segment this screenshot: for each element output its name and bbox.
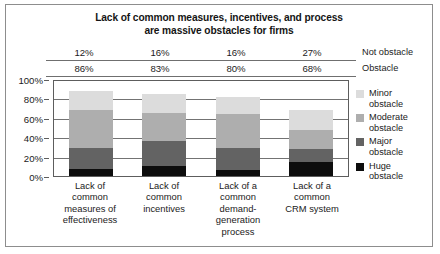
bar-segment[interactable]	[216, 97, 260, 113]
bar-column[interactable]	[142, 81, 186, 176]
summary-row-label-obstacle: Obstacle	[362, 61, 440, 76]
x-axis-category-label: Lack of acommondemand-generationprocess	[202, 180, 274, 237]
x-axis-category-label-line: common	[54, 191, 126, 202]
y-axis-tick-mark	[44, 80, 49, 81]
bar-segment[interactable]	[289, 149, 333, 163]
x-axis-category-label: Lack ofcommonmeasures ofeffectiveness	[54, 180, 126, 237]
x-axis-category-label-line: incentives	[128, 203, 200, 214]
y-axis-tick-mark	[44, 177, 49, 178]
legend-item-label-line-2: obstacle	[369, 99, 434, 110]
bar-group	[54, 81, 348, 176]
summary-row-label-not-obstacle: Not obstacle	[362, 45, 440, 60]
bar-column[interactable]	[216, 81, 260, 176]
bar-segment[interactable]	[69, 110, 113, 148]
legend-item[interactable]: Hugeobstacle	[356, 161, 434, 182]
x-axis-category-label-line: process	[202, 226, 274, 237]
legend-item-label-line-2: obstacle	[369, 171, 434, 182]
legend-item-label: Huge	[369, 161, 434, 172]
y-axis-tick-label: 20%	[0, 152, 43, 163]
chart-figure: Lack of common measures, incentives, and…	[0, 0, 440, 254]
bar-segment[interactable]	[69, 169, 113, 176]
legend-swatch-icon	[356, 138, 364, 146]
legend-item-label: Major	[369, 136, 434, 147]
y-axis-tick-label: 60%	[0, 113, 43, 124]
bar-segment[interactable]	[216, 114, 260, 148]
legend-item-label: Moderate	[369, 112, 434, 123]
y-axis-tick-label: 0%	[0, 172, 43, 183]
y-axis-tick-label: 100%	[0, 75, 43, 86]
legend-swatch-icon	[356, 114, 364, 122]
summary-obstacle-value: 83%	[122, 61, 198, 76]
y-axis: 100%80%60%40%20%0%	[0, 80, 49, 177]
x-axis-category-label-line: generation	[202, 214, 274, 225]
legend-item-label-line-2: obstacle	[369, 147, 434, 158]
y-axis-tick-mark	[44, 138, 49, 139]
x-axis-category-label-line: common	[276, 191, 348, 202]
summary-obstacle-value: 86%	[46, 61, 122, 76]
x-axis-category-label-line: Lack of a	[202, 180, 274, 191]
bar-segment[interactable]	[216, 148, 260, 170]
bar-segment[interactable]	[216, 170, 260, 176]
summary-not-obstacle-value: 16%	[122, 45, 198, 60]
x-axis-category-label-line: CRM system	[276, 203, 348, 214]
x-axis-category-label-line: demand-	[202, 203, 274, 214]
y-axis-tick-mark	[44, 158, 49, 159]
summary-not-obstacle-value: 27%	[274, 45, 350, 60]
y-axis-tick-mark	[44, 99, 49, 100]
legend-item-label-line-2: obstacle	[369, 123, 434, 134]
x-axis-category-label: Lack of acommonCRM system	[276, 180, 348, 237]
chart-title-line-2: are massive obstacles for firms	[54, 24, 384, 37]
x-axis-category-label-line: effectiveness	[54, 214, 126, 225]
y-axis-tick-mark	[44, 119, 49, 120]
bar-segment[interactable]	[142, 94, 186, 113]
bar-column[interactable]	[69, 81, 113, 176]
legend-item[interactable]: Minorobstacle	[356, 88, 434, 109]
plot-area	[53, 80, 349, 177]
x-axis-category-label-line: Lack of a	[276, 180, 348, 191]
legend-item-label: Minor	[369, 88, 434, 99]
bar-segment[interactable]	[142, 166, 186, 176]
summary-not-obstacle-value: 16%	[198, 45, 274, 60]
bar-segment[interactable]	[142, 113, 186, 141]
chart-title: Lack of common measures, incentives, and…	[54, 11, 384, 37]
bar-segment[interactable]	[289, 110, 333, 130]
x-axis-category-label: Lack ofcommonincentives	[128, 180, 200, 237]
bar-segment[interactable]	[69, 148, 113, 169]
x-axis-category-label-line: measures of	[54, 203, 126, 214]
legend-swatch-icon	[356, 163, 364, 171]
legend-item[interactable]: Majorobstacle	[356, 136, 434, 157]
bar-column[interactable]	[289, 81, 333, 176]
x-axis-labels: Lack ofcommonmeasures ofeffectivenessLac…	[53, 180, 349, 237]
summary-obstacle-value: 68%	[274, 61, 350, 76]
legend-item[interactable]: Moderateobstacle	[356, 112, 434, 133]
x-axis-category-label-line: Lack of	[54, 180, 126, 191]
summary-not-obstacle-value: 12%	[46, 45, 122, 60]
summary-row-obstacle: Obstacle 86%83%80%68%	[46, 61, 434, 77]
summary-table: Not obstacle 12%16%16%27% Obstacle 86%83…	[46, 45, 434, 77]
chart-title-line-1: Lack of common measures, incentives, and…	[54, 11, 384, 24]
legend-swatch-icon	[356, 90, 364, 98]
x-axis-category-label-line: common	[202, 191, 274, 202]
x-axis-category-label-line: common	[128, 191, 200, 202]
summary-obstacle-value: 80%	[198, 61, 274, 76]
y-axis-tick-label: 40%	[0, 133, 43, 144]
bar-segment[interactable]	[69, 91, 113, 110]
chart-legend: MinorobstacleModerateobstacleMajorobstac…	[356, 88, 434, 185]
x-axis-category-label-line: Lack of	[128, 180, 200, 191]
summary-row-not-obstacle: Not obstacle 12%16%16%27%	[46, 45, 434, 61]
bar-segment[interactable]	[289, 130, 333, 148]
y-axis-tick-label: 80%	[0, 94, 43, 105]
bar-segment[interactable]	[142, 141, 186, 166]
bar-segment[interactable]	[289, 162, 333, 176]
